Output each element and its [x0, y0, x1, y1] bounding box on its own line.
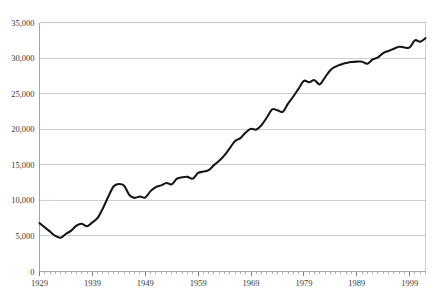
x-tickmarks — [40, 272, 426, 277]
y-tick-label-25000: 25,000 — [11, 89, 34, 99]
x-tick-label-1989: 1989 — [348, 278, 365, 288]
x-axis-tick-labels: 19291939194919591969197919891999 — [31, 278, 418, 288]
y-axis-tick-labels: 05,00010,00015,00020,00025,00030,00035,0… — [11, 18, 34, 277]
y-tick-label-0: 0 — [30, 267, 34, 277]
y-tick-label-30000: 30,000 — [11, 53, 34, 63]
line-chart: 05,00010,00015,00020,00025,00030,00035,0… — [0, 0, 435, 302]
x-tick-label-1979: 1979 — [295, 278, 312, 288]
plot-frame — [40, 23, 426, 272]
x-tick-label-1969: 1969 — [243, 278, 260, 288]
y-tick-label-5000: 5,000 — [15, 231, 34, 241]
y-tick-label-10000: 10,000 — [11, 195, 34, 205]
x-tick-label-1929: 1929 — [31, 278, 48, 288]
x-tick-label-1999: 1999 — [401, 278, 418, 288]
x-tick-label-1939: 1939 — [84, 278, 101, 288]
y-tick-label-15000: 15,000 — [11, 160, 34, 170]
chart-canvas: 05,00010,00015,00020,00025,00030,00035,0… — [0, 0, 435, 302]
x-tick-label-1959: 1959 — [190, 278, 207, 288]
x-tick-label-1949: 1949 — [137, 278, 154, 288]
series-line-1 — [40, 38, 426, 238]
data-series — [40, 38, 426, 238]
gridlines — [40, 23, 426, 272]
y-tick-label-20000: 20,000 — [11, 124, 34, 134]
y-tick-label-35000: 35,000 — [11, 18, 34, 28]
